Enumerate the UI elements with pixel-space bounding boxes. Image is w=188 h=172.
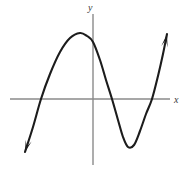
cubic-curve-path: [25, 33, 167, 152]
axes-group: [10, 14, 170, 165]
graph-canvas: [0, 0, 188, 172]
curve-group: [25, 33, 168, 152]
x-axis-label: x: [174, 95, 178, 105]
y-axis-label: y: [88, 3, 92, 13]
graph-figure: y x: [0, 0, 188, 172]
